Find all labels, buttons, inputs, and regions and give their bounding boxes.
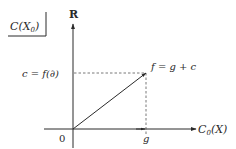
origin-label: 0	[59, 133, 65, 144]
c-label: c = f(∂)	[22, 68, 59, 79]
box-label: C(X	[10, 20, 32, 33]
f-label: f = g + c	[150, 61, 197, 72]
diagram-canvas: C(X0) R C0(X) c = f(∂) f = g + c 0 g	[0, 0, 236, 149]
f-vector	[73, 73, 146, 129]
y-axis-label: R	[69, 8, 79, 21]
g-label: g	[143, 133, 149, 144]
space-label-box: C(X0)	[8, 12, 46, 36]
svg-text:C(X0): C(X0)	[10, 20, 39, 34]
x-axis-label: C0(X)	[198, 123, 227, 137]
